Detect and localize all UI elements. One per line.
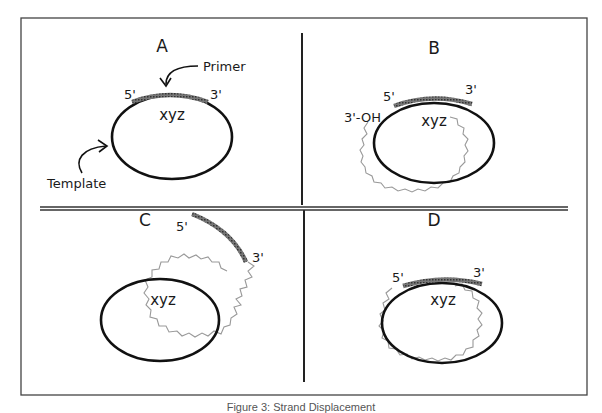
panel-b-label: B (428, 38, 440, 58)
displaced-primer (192, 214, 246, 262)
panel-dividers (40, 33, 568, 382)
figure-caption: Figure 3: Strand Displacement (0, 401, 602, 413)
primer-5prime: 5' (124, 87, 136, 102)
panel-b: B 5' 3' xyz 3'-OH (344, 38, 494, 192)
panel-a-label: A (156, 36, 168, 56)
circle-label: xyz (150, 291, 176, 309)
primer-5prime: 5' (383, 89, 395, 104)
panel-d: D 5' 3' xyz (379, 210, 502, 363)
circle-label: xyz (430, 291, 456, 309)
primer-5prime: 5' (392, 270, 404, 285)
primer-3prime: 3' (210, 87, 222, 102)
circle-label: xyz (159, 106, 185, 124)
primer-3prime: 3' (465, 82, 477, 97)
primer-5prime: 5' (176, 219, 188, 234)
primer-3prime: 3' (252, 250, 264, 265)
panel-c-label: C (139, 210, 151, 230)
primer-callout: Primer (203, 59, 246, 74)
circle-label: xyz (421, 112, 447, 130)
panel-c: C 5' 3' xyz (101, 210, 264, 361)
primer-3prime: 3' (473, 265, 485, 280)
panel-d-label: D (427, 210, 440, 230)
end-label-3oh: 3'-OH (344, 110, 381, 125)
template-callout: Template (46, 176, 106, 191)
primer-arrow-icon (166, 66, 198, 84)
panel-a: A 5' 3' xyz Primer Template (46, 36, 246, 191)
